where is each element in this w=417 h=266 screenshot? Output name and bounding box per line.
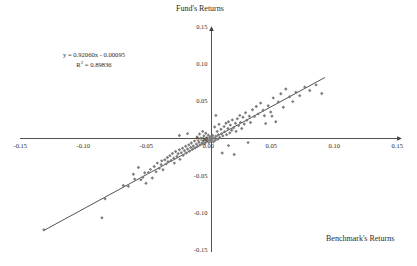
data-point <box>234 122 237 125</box>
data-point <box>144 182 147 185</box>
y-tick-label: -0.05 <box>190 173 208 180</box>
data-point <box>274 120 277 123</box>
y-tick-label: 0.00 <box>190 136 208 143</box>
data-point <box>320 92 323 95</box>
data-point <box>137 166 140 169</box>
data-point <box>269 110 272 113</box>
y-tick-label: -0.15 <box>190 247 208 254</box>
x-axis-title: Benchmark's Returns <box>326 235 394 243</box>
data-point <box>166 160 169 163</box>
data-point <box>238 114 241 117</box>
data-point <box>215 130 218 133</box>
data-point <box>178 134 181 137</box>
data-point <box>255 105 258 108</box>
data-point <box>180 151 183 154</box>
y-tick-label: 0.10 <box>190 61 208 68</box>
x-tick-label: -0.10 <box>77 143 91 150</box>
regression-equation-annotation: y = 0.92060x - 0.00095 R2 = 0.89836 <box>44 50 144 69</box>
data-point <box>178 148 181 151</box>
data-point <box>267 104 270 107</box>
data-point <box>248 114 251 117</box>
data-point <box>241 116 244 119</box>
r-squared-value: = 0.89836 <box>83 61 111 68</box>
data-point <box>221 151 224 154</box>
data-point <box>166 156 169 159</box>
data-point <box>222 125 225 128</box>
data-point <box>174 150 177 153</box>
x-tick-label: 0.00 <box>203 143 214 150</box>
data-point <box>270 114 273 117</box>
x-tick-label: -0.05 <box>140 143 154 150</box>
data-point <box>291 100 294 103</box>
data-point <box>184 145 187 148</box>
data-point <box>231 118 234 121</box>
data-point <box>183 149 186 152</box>
data-point <box>219 127 222 130</box>
data-point <box>264 122 267 125</box>
data-point <box>243 122 246 125</box>
data-point <box>240 127 243 130</box>
scatter-chart: y = 0.92060x - 0.00095 R2 = 0.89836 Fund… <box>0 0 417 266</box>
data-point <box>100 216 103 219</box>
data-point <box>160 159 163 162</box>
data-point <box>213 125 216 128</box>
data-point <box>249 121 252 124</box>
data-point <box>229 123 232 126</box>
data-point <box>308 89 311 92</box>
x-tick-label: 0.15 <box>392 143 403 150</box>
data-point <box>282 106 285 109</box>
data-point <box>279 92 282 95</box>
data-point <box>214 114 217 117</box>
data-point <box>232 153 235 156</box>
data-point <box>156 161 159 164</box>
data-point <box>201 130 204 133</box>
x-tick-label: 0.05 <box>266 143 277 150</box>
plot-canvas <box>0 0 417 266</box>
data-point <box>181 146 184 149</box>
r-squared-line: R2 = 0.89836 <box>44 60 144 70</box>
y-tick-label: 0.15 <box>190 24 208 31</box>
data-point <box>236 117 239 120</box>
data-point <box>168 154 171 157</box>
regression-equation-line: y = 0.92060x - 0.00095 <box>44 50 144 60</box>
data-point <box>171 152 174 155</box>
y-tick-label: 0.05 <box>190 98 208 105</box>
data-point <box>187 143 190 146</box>
data-point <box>143 171 146 174</box>
data-point <box>244 111 247 114</box>
trend-line <box>44 77 325 230</box>
data-point <box>284 87 287 90</box>
data-point <box>225 133 228 136</box>
data-point <box>132 173 135 176</box>
data-point <box>314 83 317 86</box>
data-point <box>152 165 155 168</box>
data-point <box>234 130 237 133</box>
data-point <box>227 144 230 147</box>
y-tick-label: -0.10 <box>190 210 208 217</box>
data-point <box>259 101 262 104</box>
data-point <box>186 147 189 150</box>
x-tick-label: -0.15 <box>14 143 28 150</box>
data-point <box>228 131 231 134</box>
data-point <box>263 114 266 117</box>
data-point <box>298 94 301 97</box>
data-point <box>161 168 164 171</box>
x-tick-label: 0.10 <box>329 143 340 150</box>
data-point <box>163 158 166 161</box>
data-point <box>149 168 152 171</box>
data-point <box>173 161 176 164</box>
data-point <box>151 176 154 179</box>
data-point <box>251 108 254 111</box>
data-point <box>178 158 181 161</box>
data-point <box>147 171 150 174</box>
y-axis-title: Fund's Returns <box>176 5 224 13</box>
data-point-group <box>42 83 323 231</box>
data-point <box>217 123 220 126</box>
data-point <box>246 141 249 144</box>
data-point <box>272 96 275 99</box>
data-point <box>42 228 45 231</box>
